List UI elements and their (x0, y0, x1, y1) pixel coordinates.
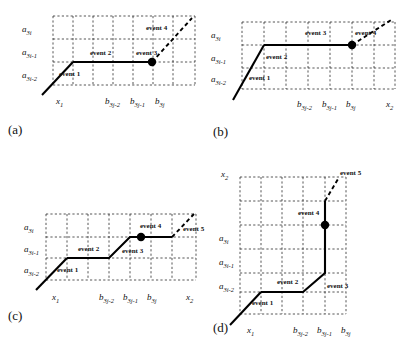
event-label-4-b: event 4 (355, 29, 376, 37)
x-axis-label-b3j-2-b: b3j-2 (297, 99, 312, 111)
y-axis-label-a3i-a: a3i (22, 24, 32, 36)
panel-d-graphics (205, 165, 411, 341)
panel-c: a3i a3i-1 a3i-2 x1 b3j-2 b3j-1 b3j x2 ev… (0, 170, 205, 341)
x-axis-label-b3j-a: b3j (155, 96, 165, 108)
x-axis-label-b3j-b: b3j (346, 99, 356, 111)
y-axis-label-a3i-2-d: a3i-2 (219, 281, 234, 293)
x-axis-label-b3j-2-a: b3j-2 (105, 96, 120, 108)
event-label-1-b: event 1 (249, 74, 270, 82)
x-axis-label-x2-b: x2 (386, 99, 393, 111)
y-axis-label-a3i-1-a: a3i-1 (22, 47, 37, 59)
y-axis-label-a3i-1-d: a3i-1 (219, 257, 234, 269)
panel-b-graphics (205, 0, 411, 170)
path-entry-tail-d (230, 292, 261, 325)
event-label-1-c: event 1 (57, 266, 78, 274)
x-axis-label-b3j-1-a: b3j-1 (130, 96, 145, 108)
y-axis-label-a3i-b: a3i (211, 30, 221, 42)
event-label-3-b: event 3 (305, 29, 326, 37)
panel-label-c: (c) (8, 308, 22, 324)
event-label-2-c: event 2 (78, 245, 99, 253)
event-label-4-d: event 4 (298, 209, 319, 217)
panel-a: a3i a3i-1 a3i-2 x1 b3j-2 b3j-1 b3j event… (0, 0, 205, 170)
x-axis-label-x1-c: x1 (52, 292, 59, 304)
event-label-4-c: event 4 (140, 222, 161, 230)
y-axis-label-a3i-d: a3i (219, 233, 229, 245)
path-entry-tail-c (36, 258, 67, 290)
y-axis-label-a3i-2-c: a3i-2 (24, 265, 39, 277)
x-axis-label-x2-c: x2 (186, 292, 193, 304)
event-label-1-d: event 1 (252, 299, 273, 307)
panel-d: x2 a3i a3i-1 a3i-2 x1 b3j-2 b3j-1 b3j ev… (205, 165, 411, 341)
event-label-2-b: event 2 (266, 53, 287, 61)
x-axis-label-x1-d: x1 (247, 325, 254, 337)
event-dot-c (137, 233, 145, 241)
event-label-4-a: event 4 (146, 24, 167, 32)
y-axis-label-x2-d: x2 (221, 169, 228, 181)
panel-label-d: (d) (213, 320, 228, 336)
panel-b: a3i a3i-1 a3i-2 b3j-2 b3j-1 b3j x2 event… (205, 0, 411, 170)
event-label-3-d: event 3 (327, 282, 348, 290)
y-axis-label-a3i-1-c: a3i-1 (24, 244, 39, 256)
event-label-3-c: event 3 (122, 247, 143, 255)
y-axis-label-a3i-2-b: a3i-2 (211, 74, 226, 86)
x-axis-label-b3j-2-c: b3j-2 (99, 292, 114, 304)
y-axis-label-a3i-2-a: a3i-2 (22, 70, 37, 82)
x-axis-label-b3j-1-b: b3j-1 (322, 99, 337, 111)
path-entry-tail-a (42, 62, 73, 95)
x-axis-label-b3j-c: b3j (147, 292, 157, 304)
y-axis-label-a3i-c: a3i (24, 222, 34, 234)
event-dot-d (321, 221, 329, 229)
panel-label-a: (a) (8, 122, 22, 138)
x-axis-label-b3j-1-c: b3j-1 (123, 292, 138, 304)
path-exit-ray-d (325, 179, 338, 201)
x-axis-label-x1-a: x1 (56, 96, 63, 108)
event-dot-a (148, 58, 156, 66)
event-label-5-d: event 5 (340, 169, 361, 177)
event-dot-b (348, 41, 356, 49)
panel-label-b: (b) (213, 124, 228, 140)
x-axis-label-b3j-1-d: b3j-1 (317, 325, 332, 337)
path-entry-tail-b (233, 45, 264, 100)
event-label-1-a: event 1 (59, 70, 80, 78)
event-label-2-d: event 2 (277, 278, 298, 286)
grid-lines-d (240, 177, 346, 314)
event-label-2-a: event 2 (90, 49, 111, 57)
event-label-5-c: event 5 (183, 225, 204, 233)
x-axis-label-b3j-2-d: b3j-2 (293, 325, 308, 337)
y-axis-label-a3i-1-b: a3i-1 (211, 53, 226, 65)
event-label-3-a: event 3 (136, 49, 157, 57)
x-axis-label-b3j-d: b3j (341, 325, 351, 337)
